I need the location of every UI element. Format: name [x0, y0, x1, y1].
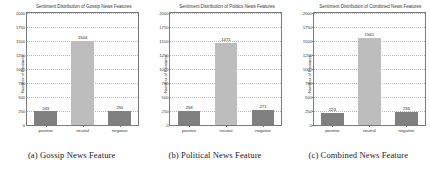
y-axis-label: Number of Features — [20, 55, 25, 93]
y-tick-label: 1000 — [16, 67, 25, 72]
y-tick-label: 1750 — [16, 25, 25, 30]
x-tick-label-neutral: neutral — [76, 128, 89, 133]
chart-title: Sentiment Distribution of Combined News … — [313, 4, 428, 9]
x-tick-label-neutral: neutral — [363, 128, 376, 133]
x-tick-label-positive: positive — [325, 128, 339, 133]
x-tick-mark — [189, 125, 190, 127]
bar-group: 243positive1504neutral255negative — [27, 13, 138, 125]
y-tick-label: 1750 — [303, 25, 312, 30]
y-tick-label: 1000 — [159, 67, 168, 72]
chart-panel-2: Sentiment Distribution of Politics News … — [143, 0, 286, 180]
y-tick-label: 2000 — [303, 11, 312, 16]
y-tick-label: 1250 — [303, 53, 312, 58]
x-tick-mark — [120, 125, 121, 127]
y-axis-label: Number of Features — [306, 55, 311, 93]
y-tick-label: 1500 — [159, 39, 168, 44]
x-tick-mark — [83, 125, 84, 127]
panel-caption: (b) Political News Feature — [143, 150, 286, 160]
bar-value-label: 223 — [329, 107, 336, 112]
y-tick-label: 500 — [18, 95, 25, 100]
bar-value-label: 1504 — [78, 35, 87, 40]
y-tick-label: 250 — [162, 109, 169, 114]
bar-positive: 223positive — [321, 113, 344, 125]
bar-positive: 243positive — [34, 111, 57, 125]
y-tick-label: 1500 — [16, 39, 25, 44]
y-tick-label: 1250 — [16, 53, 25, 58]
bar-value-label: 1561 — [365, 32, 374, 37]
y-tick-label: 250 — [18, 109, 25, 114]
chart-title: Sentiment Distribution of Gossip News Fe… — [26, 4, 141, 9]
y-tick-label: 2000 — [159, 11, 168, 16]
y-tick-label: 2000 — [16, 11, 25, 16]
x-tick-mark — [369, 125, 370, 127]
chart-area: Sentiment Distribution of Politics News … — [143, 0, 286, 148]
bar-value-label: 271 — [259, 104, 266, 109]
x-tick-mark — [46, 125, 47, 127]
x-tick-label-neutral: neutral — [220, 128, 233, 133]
y-tick-label: 500 — [162, 95, 169, 100]
bar-value-label: 255 — [116, 105, 123, 110]
bar-neutral: 1561neutral — [358, 38, 381, 125]
chart-area: Sentiment Distribution of Gossip News Fe… — [0, 0, 143, 148]
y-tick-mark — [26, 125, 28, 126]
bar-neutral: 1471neutral — [215, 43, 238, 125]
bar-value-label: 1471 — [221, 37, 230, 42]
panel-caption: (c) Combined News Feature — [287, 150, 430, 160]
y-tick-label: 1750 — [159, 25, 168, 30]
x-tick-label-positive: positive — [39, 128, 53, 133]
x-tick-mark — [226, 125, 227, 127]
y-tick-label: 0 — [166, 123, 168, 128]
chart-panel-1: Sentiment Distribution of Gossip News Fe… — [0, 0, 143, 180]
chart-title: Sentiment Distribution of Politics News … — [169, 4, 284, 9]
bar-value-label: 258 — [185, 105, 192, 110]
y-tick-label: 500 — [305, 95, 312, 100]
y-tick-mark — [312, 125, 314, 126]
y-tick-mark — [169, 125, 171, 126]
bar-value-label: 243 — [42, 106, 49, 111]
bar-value-label: 236 — [403, 106, 410, 111]
x-tick-label-negative: negative — [255, 128, 271, 133]
plot-area: 025050075010001250150017502000258positiv… — [169, 12, 282, 126]
bar-negative: 236negative — [395, 112, 418, 125]
y-tick-label: 250 — [305, 109, 312, 114]
bar-group: 258positive1471neutral271negative — [170, 13, 281, 125]
bar-negative: 255negative — [108, 111, 131, 125]
y-tick-label: 0 — [23, 123, 25, 128]
chart-area: Sentiment Distribution of Combined News … — [287, 0, 430, 148]
y-tick-label: 1250 — [159, 53, 168, 58]
bar-group: 223positive1561neutral236negative — [314, 13, 425, 125]
x-tick-mark — [406, 125, 407, 127]
bar-positive: 258positive — [178, 111, 201, 125]
y-tick-label: 750 — [305, 81, 312, 86]
figure-panel-row: Sentiment Distribution of Gossip News Fe… — [0, 0, 430, 180]
x-tick-label-negative: negative — [112, 128, 128, 133]
plot-area: 025050075010001250150017502000223positiv… — [313, 12, 426, 126]
y-tick-label: 1500 — [303, 39, 312, 44]
x-tick-mark — [263, 125, 264, 127]
y-tick-label: 750 — [162, 81, 169, 86]
x-tick-label-positive: positive — [182, 128, 196, 133]
plot-area: 025050075010001250150017502000243positiv… — [26, 12, 139, 126]
y-tick-label: 1000 — [303, 67, 312, 72]
y-tick-label: 0 — [310, 123, 312, 128]
chart-panel-3: Sentiment Distribution of Combined News … — [287, 0, 430, 180]
y-axis-label: Number of Features — [163, 55, 168, 93]
x-tick-mark — [332, 125, 333, 127]
y-tick-label: 750 — [18, 81, 25, 86]
bar-neutral: 1504neutral — [71, 41, 94, 125]
panel-caption: (a) Gossip News Feature — [0, 150, 143, 160]
bar-negative: 271negative — [252, 110, 275, 125]
x-tick-label-negative: negative — [398, 128, 414, 133]
